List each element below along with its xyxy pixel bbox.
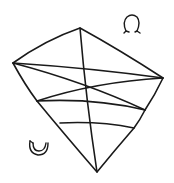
cross-line-top xyxy=(13,63,163,78)
spine-line xyxy=(80,28,97,172)
crescent-symbol xyxy=(30,141,48,155)
diagonal-right-to-left-lower xyxy=(37,78,163,101)
cross-line-bottom xyxy=(60,123,134,128)
diagonal-left-to-right-lower xyxy=(13,63,145,110)
omega-symbol xyxy=(124,15,140,33)
kite-diagram xyxy=(0,0,174,183)
